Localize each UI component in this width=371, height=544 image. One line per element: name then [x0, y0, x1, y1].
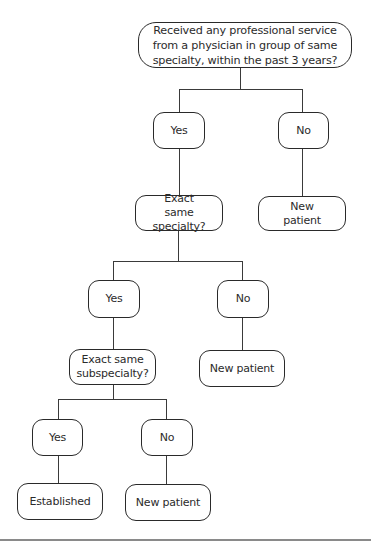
level2-no-node: No	[217, 280, 269, 318]
level2-yes-label: Yes	[105, 292, 122, 306]
connector	[166, 399, 167, 419]
connector	[242, 318, 243, 350]
connector	[166, 456, 167, 484]
connector	[178, 231, 179, 261]
level1-yes-label: Yes	[170, 124, 187, 138]
level3-yes-label: Yes	[49, 431, 66, 445]
connector	[58, 456, 59, 483]
level3-new-patient-text: New patient	[136, 496, 200, 510]
level1-yes-node: Yes	[153, 112, 205, 149]
level2-new-patient-node: New patient	[199, 350, 285, 387]
bottom-divider	[0, 539, 371, 541]
connector	[302, 89, 303, 112]
root-question-text: Received any professional service from a…	[145, 23, 345, 68]
connector	[58, 399, 167, 400]
connector	[58, 399, 59, 419]
level2-yes-node: Yes	[88, 280, 140, 318]
level1-new-patient-node: New patient	[258, 196, 346, 231]
specialty-question-node: Exact same specialty?	[135, 195, 223, 231]
level2-no-label: No	[236, 292, 251, 306]
level1-no-label: No	[296, 124, 311, 138]
level2-new-patient-text: New patient	[210, 362, 274, 376]
connector	[113, 261, 114, 280]
established-text: Established	[29, 495, 90, 509]
connector	[242, 261, 243, 280]
level3-yes-node: Yes	[32, 419, 83, 456]
connector	[113, 385, 114, 399]
level3-no-node: No	[141, 419, 193, 456]
level3-no-label: No	[160, 431, 175, 445]
connector	[179, 89, 303, 90]
connector	[179, 89, 180, 112]
established-node: Established	[17, 483, 103, 520]
root-question-node: Received any professional service from a…	[138, 22, 352, 68]
level1-new-patient-text: New patient	[283, 200, 321, 228]
connector	[113, 318, 114, 349]
connector	[179, 149, 180, 195]
connector	[302, 149, 303, 196]
level1-no-node: No	[278, 112, 329, 149]
connector	[240, 68, 241, 89]
connector	[113, 261, 243, 262]
level3-new-patient-node: New patient	[125, 484, 211, 521]
subspecialty-question-node: Exact same subspecialty?	[69, 349, 156, 385]
specialty-question-text: Exact same specialty?	[150, 192, 208, 234]
subspecialty-question-text: Exact same subspecialty?	[76, 353, 149, 381]
